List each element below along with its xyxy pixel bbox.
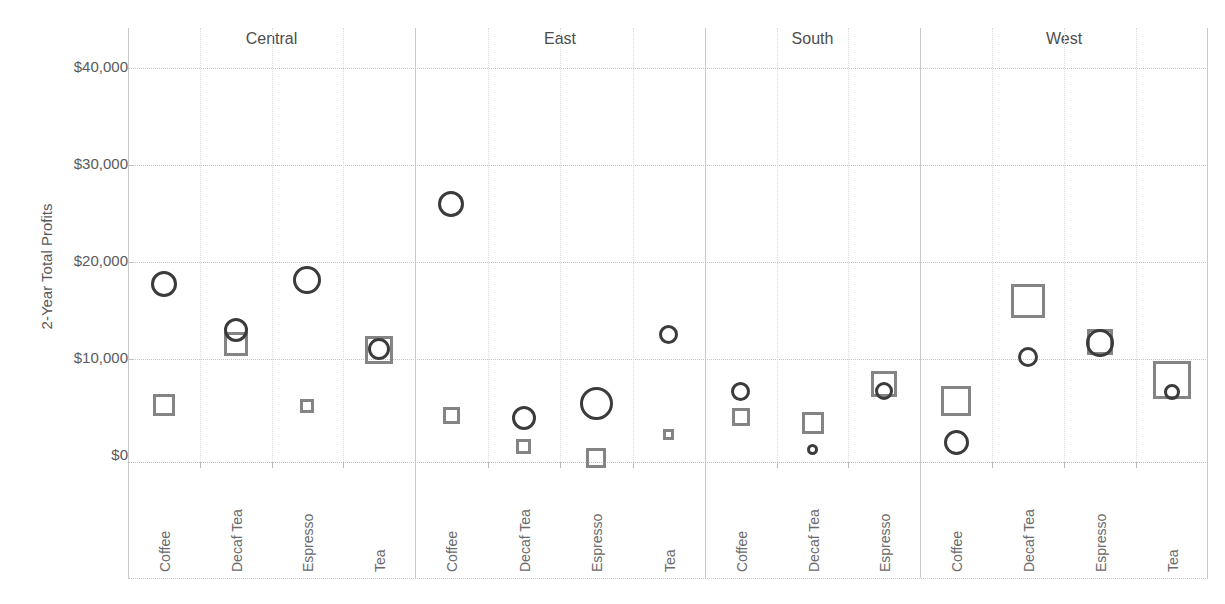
x-axis-label-east-decaf-tea: Decaf Tea [517,509,533,572]
mark-circle-west-tea[interactable] [1164,384,1180,400]
mark-circle-central-coffee[interactable] [151,271,177,297]
x-axis-label-central-coffee: Coffee [157,531,173,572]
mark-square-west-coffee[interactable] [941,386,971,416]
x-axis-label-east-espresso: Espresso [589,514,605,572]
x-axis-label-central-espresso: Espresso [300,514,316,572]
plot-bottom-border [128,578,1208,579]
mark-square-east-coffee[interactable] [443,407,460,424]
gridline-horizontal [128,359,1208,360]
mark-square-south-decaf-tea[interactable] [802,412,824,434]
y-axis-tick-label: $30,000 [36,156,128,171]
x-axis-label-west-decaf-tea: Decaf Tea [1021,509,1037,572]
mark-circle-east-tea[interactable] [659,325,678,344]
x-axis-tick-mark [633,462,634,468]
y-axis-tick-group: $40,000$30,000$20,000$10,000$0 [28,0,128,604]
mark-circle-east-coffee[interactable] [438,191,464,217]
gridline-vertical [992,28,993,462]
x-axis-label-east-tea: Tea [662,549,678,572]
mark-square-west-decaf-tea[interactable] [1011,284,1045,318]
x-axis-tick-mark [272,462,273,468]
x-axis-tick-mark [777,462,778,468]
x-axis-tick-mark [200,462,201,468]
mark-square-east-decaf-tea[interactable] [516,439,531,454]
x-axis-label-south-coffee: Coffee [734,531,750,572]
gridline-horizontal [128,262,1208,263]
gridline-vertical [777,28,778,462]
gridline-vertical [488,28,489,462]
mark-circle-south-espresso[interactable] [875,382,893,400]
gridline-vertical [1136,28,1137,462]
gridline-vertical [560,28,561,462]
gridline-vertical [343,28,344,462]
x-axis-tick-mark [560,462,561,468]
x-axis-label-west-coffee: Coffee [949,531,965,572]
gridline-vertical [200,28,201,462]
y-axis-tick-label: $10,000 [36,350,128,365]
x-axis-label-central-decaf-tea: Decaf Tea [229,509,245,572]
gridline-horizontal [128,165,1208,166]
x-axis-tick-mark [343,462,344,468]
gridline-vertical [633,28,634,462]
x-axis-label-east-coffee: Coffee [444,531,460,572]
mark-circle-east-espresso[interactable] [580,387,613,420]
mark-circle-west-coffee[interactable] [944,430,969,455]
x-axis-label-south-espresso: Espresso [877,514,893,572]
x-axis-line [128,462,1208,463]
mark-circle-south-coffee[interactable] [731,382,750,401]
mark-circle-central-decaf-tea[interactable] [224,318,248,342]
gridline-vertical [1064,28,1065,462]
mark-square-south-coffee[interactable] [732,408,750,426]
mark-circle-south-decaf-tea[interactable] [807,444,818,455]
mark-square-east-espresso[interactable] [586,448,606,468]
x-axis-tick-mark [848,462,849,468]
x-axis-label-south-decaf-tea: Decaf Tea [806,509,822,572]
gridline-vertical [272,28,273,462]
mark-circle-central-espresso[interactable] [293,266,321,294]
x-axis-label-west-espresso: Espresso [1093,514,1109,572]
mark-circle-east-decaf-tea[interactable] [512,406,536,430]
x-axis-tick-mark [1136,462,1137,468]
x-axis-label-central-tea: Tea [372,549,388,572]
y-axis-tick-label: $40,000 [36,59,128,74]
x-axis-tick-mark [992,462,993,468]
mark-square-central-coffee[interactable] [153,394,175,416]
mark-square-central-espresso[interactable] [300,399,314,413]
chart-canvas: 2-Year Total Profits $40,000$30,000$20,0… [0,0,1225,604]
x-axis-label-west-tea: Tea [1165,549,1181,572]
y-axis-tick-label: $20,000 [36,253,128,268]
gridline-vertical [848,28,849,462]
x-axis-tick-mark [1064,462,1065,468]
x-axis-tick-mark [488,462,489,468]
mark-circle-west-decaf-tea[interactable] [1018,347,1038,367]
plot-area [128,28,1208,462]
y-axis-tick-label: $0 [36,447,128,462]
mark-square-east-tea[interactable] [663,429,674,440]
